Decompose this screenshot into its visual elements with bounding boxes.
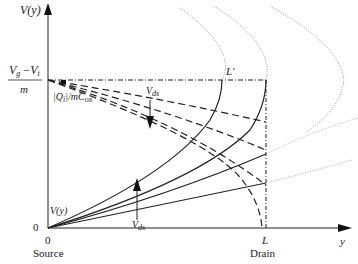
- source-label: Source: [33, 248, 64, 259]
- plateau-start-mark: [61, 80, 66, 84]
- charge-label: |Qi|/mCox: [53, 92, 92, 104]
- extension-2: [266, 160, 352, 183]
- y-axis-arrow-icon: [44, 3, 52, 15]
- plateau-numerator: Vg −Vt: [9, 64, 40, 78]
- x-axis-label: y: [340, 236, 345, 247]
- parabola-1: [180, 8, 225, 80]
- vds-top-label: Vds: [146, 86, 159, 98]
- drain-tick: L: [262, 235, 268, 246]
- mosfet-channel-potential-diagram: V(y) y 0 0 Source L Drain Vg −Vt m |Qi|/…: [0, 0, 358, 264]
- parabola-3: [270, 6, 344, 132]
- y-origin-tick: 0: [33, 222, 39, 233]
- diagram-canvas: [0, 0, 358, 264]
- potential-curve-4: [48, 183, 266, 228]
- extension-1: [266, 118, 358, 154]
- drain-label: Drain: [250, 248, 275, 259]
- y-axis-label: V(y): [20, 4, 41, 16]
- parabola-2: [214, 6, 267, 80]
- pinchoff-label: L′: [226, 66, 235, 77]
- plateau-denominator: m: [20, 84, 28, 95]
- vds-bottom-label: Vds: [132, 220, 145, 232]
- curve-vy-label: V(y): [50, 206, 67, 216]
- x-axis-arrow-icon: [338, 224, 352, 232]
- x-origin-tick: 0: [45, 235, 51, 246]
